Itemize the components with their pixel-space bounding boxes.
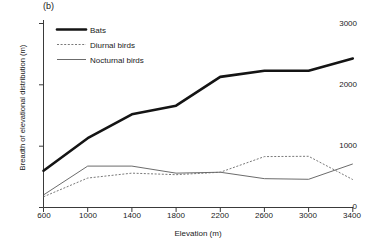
legend-label-diurnal-birds: Diurnal birds — [90, 41, 135, 50]
y-tick-label-1000: 1000 — [323, 141, 357, 150]
x-tick-label-1800: 1800 — [156, 211, 196, 220]
x-tick-label-2600: 2600 — [244, 211, 284, 220]
x-axis-label: Elevation (m) — [43, 229, 353, 238]
y-tick-label-3000: 3000 — [323, 19, 357, 28]
x-tick-label-1400: 1400 — [112, 211, 152, 220]
legend-label-bats: Bats — [90, 26, 106, 35]
y-tick-label-0: 0 — [323, 202, 357, 211]
x-tick-label-3000: 3000 — [288, 211, 328, 220]
series-line-diurnal-birds — [44, 156, 353, 196]
panel-label: (b) — [43, 1, 54, 11]
series-line-bats — [44, 58, 353, 170]
y-axis-label: Breadth of elevational distribution (m) — [18, 23, 27, 193]
x-tick-label-2200: 2200 — [200, 211, 240, 220]
x-tick-label-600: 600 — [24, 211, 64, 220]
legend-label-nocturnal-birds: Nocturnal birds — [90, 56, 144, 65]
series-line-nocturnal-birds — [44, 164, 353, 195]
x-tick-label-3400: 3400 — [332, 211, 366, 220]
y-tick-label-2000: 2000 — [323, 80, 357, 89]
x-tick-label-1000: 1000 — [68, 211, 108, 220]
